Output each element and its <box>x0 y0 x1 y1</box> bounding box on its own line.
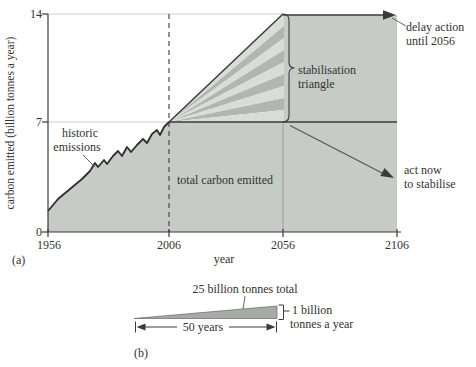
wedge-total-pointer-line <box>243 296 245 309</box>
one-billion-label-line2: tonnes a year <box>290 317 353 331</box>
figure-canvas: carbon emitted (billion tonnes a year) 1… <box>0 0 476 367</box>
historic-label-pointer-line <box>83 155 95 167</box>
total-carbon-emitted-label: total carbon emitted <box>177 173 273 187</box>
historic-emissions-label-line2: emissions <box>53 140 101 154</box>
y-tick-label-14: 14 <box>30 7 42 21</box>
y-tick-label-7: 7 <box>36 115 42 129</box>
dimension-arrowhead-right-icon <box>267 324 276 331</box>
y-axis-title: carbon emitted (billion tonnes a year) <box>4 36 17 209</box>
wedge-total-label: 25 billion tonnes total <box>193 282 299 296</box>
act-now-label-line1: act now <box>404 163 442 177</box>
fifty-years-label: 50 years <box>183 320 224 334</box>
dimension-arrowhead-left-icon <box>137 324 146 331</box>
delay-action-label-line1: delay action <box>406 20 464 34</box>
stabilisation-triangle-label-line2: triangle <box>298 77 335 91</box>
x-tick-label-2056: 2056 <box>271 238 295 252</box>
historic-emissions-label-line1: historic <box>62 126 98 140</box>
area-2056-2106 <box>283 15 397 232</box>
stabilisation-wedges-figure: carbon emitted (billion tonnes a year) 1… <box>0 0 476 367</box>
x-axis-title: year <box>214 252 235 266</box>
act-now-label-line2: to stabilise <box>404 177 456 191</box>
unit-wedge-shape <box>134 306 277 319</box>
stabilisation-triangle-label-line1: stabilisation <box>298 63 356 77</box>
panel-b-label: (b) <box>134 346 148 360</box>
one-billion-bracket <box>279 305 290 320</box>
delay-action-label-line2: until 2056 <box>406 34 455 48</box>
panel-a-label: (a) <box>12 253 25 267</box>
one-billion-label-line1: 1 billion <box>292 303 332 317</box>
x-tick-label-2006: 2006 <box>157 238 181 252</box>
x-tick-label-2106: 2106 <box>385 238 409 252</box>
y-tick-label-0: 0 <box>36 225 42 239</box>
x-tick-label-1956: 1956 <box>37 238 61 252</box>
